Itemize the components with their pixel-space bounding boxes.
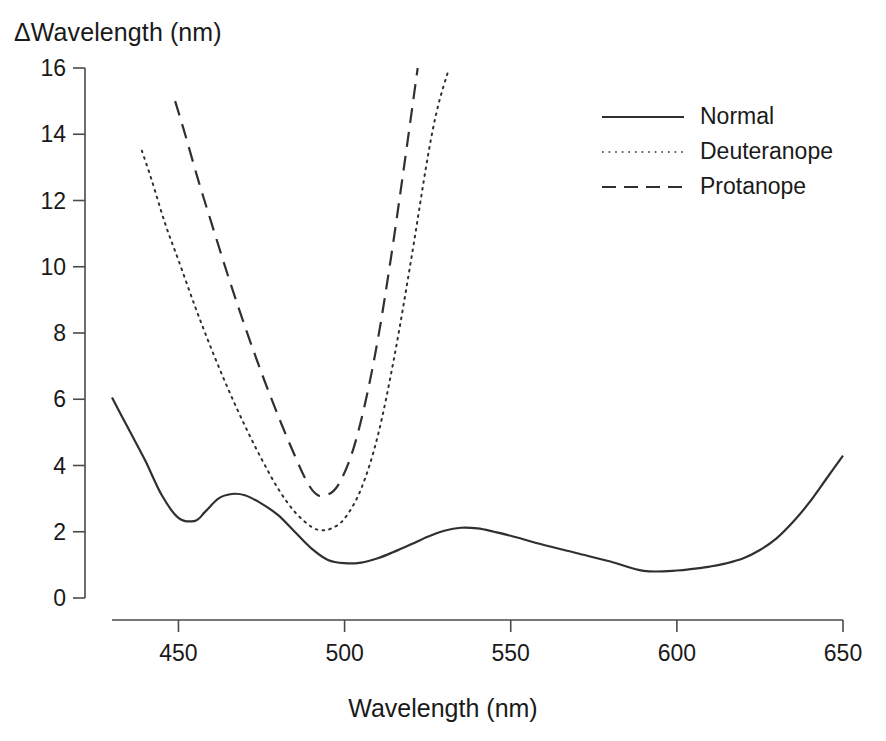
y-tick-label: 0 <box>53 585 66 612</box>
legend-label-normal: Normal <box>686 103 774 130</box>
y-axis-ticks <box>73 68 85 598</box>
y-tick-label: 12 <box>40 187 66 214</box>
x-tick-label: 650 <box>824 640 862 667</box>
legend-item-protanope: Protanope <box>600 169 850 204</box>
series-line-protanope <box>175 68 418 496</box>
series-line-deuteranope <box>142 73 448 530</box>
series-line-normal <box>112 398 843 572</box>
y-tick-label: 6 <box>53 386 66 413</box>
x-tick-label: 500 <box>325 640 363 667</box>
x-tick-label: 550 <box>492 640 530 667</box>
y-tick-label: 8 <box>53 320 66 347</box>
x-tick-label: 600 <box>658 640 696 667</box>
x-tick-label: 450 <box>159 640 197 667</box>
y-tick-label: 4 <box>53 452 66 479</box>
legend-label-deuteranope: Deuteranope <box>686 138 833 165</box>
y-tick-label: 16 <box>40 55 66 82</box>
y-tick-label: 2 <box>53 518 66 545</box>
y-tick-label: 14 <box>40 121 66 148</box>
legend-swatch-dashed-icon <box>600 180 686 194</box>
chart-legend: Normal Deuteranope Protanope <box>600 99 850 204</box>
y-tick-label: 10 <box>40 253 66 280</box>
legend-item-normal: Normal <box>600 99 850 134</box>
legend-label-protanope: Protanope <box>686 173 806 200</box>
legend-swatch-solid-icon <box>600 110 686 124</box>
x-axis-title: Wavelength (nm) <box>0 694 886 723</box>
legend-swatch-dotted-icon <box>600 145 686 159</box>
legend-item-deuteranope: Deuteranope <box>600 134 850 169</box>
x-axis-ticks <box>178 620 843 632</box>
chart-figure: ΔWavelength (nm) 1614121086420 450500550… <box>0 0 886 741</box>
